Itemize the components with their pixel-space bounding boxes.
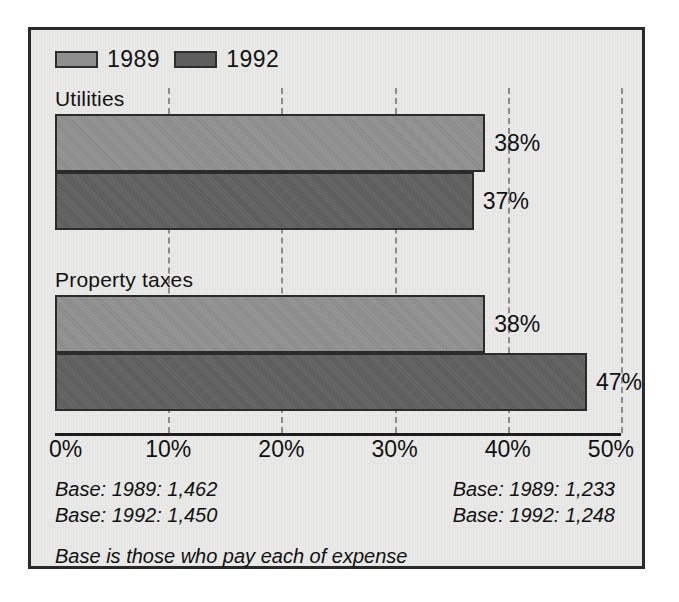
- chart-frame: 1989 1992 Utilities 38% 37%: [28, 27, 645, 569]
- bar-group-property-taxes: Property taxes 38% 47%: [55, 269, 621, 411]
- bar-utilities-1989: [55, 114, 485, 172]
- legend-swatch-1989: [55, 51, 98, 68]
- x-tick-40%: 40%: [485, 438, 531, 461]
- bar-property-taxes-1992: [55, 353, 587, 411]
- note-line: Base: 1992: 1,248: [453, 502, 615, 528]
- bar-utilities-1992: [55, 172, 474, 230]
- legend-item-1989: 1989: [55, 48, 160, 71]
- base-notes: Base: 1989: 1,462 Base: 1992: 1,450 Base…: [55, 476, 621, 529]
- bar-value-utilities-1989: 38%: [494, 132, 540, 155]
- note-line: Base: 1989: 1,462: [55, 476, 217, 502]
- group-label-utilities: Utilities: [55, 88, 621, 109]
- note-line: Base: 1989: 1,233: [453, 476, 615, 502]
- bar-row: 38%: [55, 295, 621, 353]
- x-tick-50%: 50%: [588, 438, 634, 461]
- bar-row: 38%: [55, 114, 621, 172]
- legend-label-1992: 1992: [226, 48, 279, 71]
- bar-value-property-taxes-1992: 47%: [596, 371, 642, 394]
- legend-label-1989: 1989: [107, 48, 160, 71]
- x-tick-20%: 20%: [258, 438, 304, 461]
- chart-legend: 1989 1992: [55, 48, 279, 71]
- x-tick-0%: 0%: [49, 438, 82, 461]
- x-axis-labels: 0%10%20%30%40%50%: [55, 438, 621, 470]
- note-line: Base: 1992: 1,450: [55, 502, 217, 528]
- bar-value-property-taxes-1989: 38%: [494, 313, 540, 336]
- chart-page: 1989 1992 Utilities 38% 37%: [0, 0, 679, 602]
- legend-swatch-1992: [174, 51, 217, 68]
- bar-value-utilities-1992: 37%: [483, 190, 529, 213]
- group-label-property-taxes: Property taxes: [55, 269, 621, 290]
- x-tick-10%: 10%: [145, 438, 191, 461]
- bar-property-taxes-1989: [55, 295, 485, 353]
- base-notes-right: Base: 1989: 1,233 Base: 1992: 1,248: [453, 476, 621, 529]
- bar-row: 47%: [55, 353, 621, 411]
- plot-area: Utilities 38% 37% Property taxes 38%: [55, 88, 621, 433]
- base-footer-note: Base is those who pay each of expense: [55, 546, 407, 566]
- bar-group-utilities: Utilities 38% 37%: [55, 88, 621, 230]
- base-notes-left: Base: 1989: 1,462 Base: 1992: 1,450: [55, 476, 217, 529]
- axis-baseline: [55, 433, 621, 436]
- bar-row: 37%: [55, 172, 621, 230]
- legend-item-1992: 1992: [174, 48, 279, 71]
- x-tick-30%: 30%: [372, 438, 418, 461]
